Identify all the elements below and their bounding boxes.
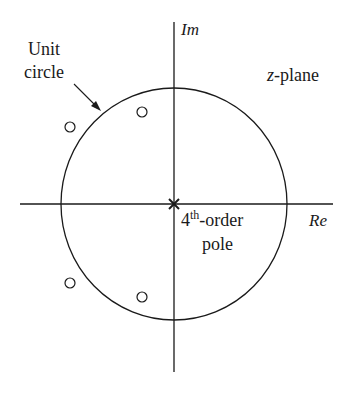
unit-circle-label-line2: circle	[24, 62, 64, 82]
pole-zero-diagram: Unit circle Im z-plane Re 4th-order pole	[0, 0, 357, 394]
z-plane-label: z-plane	[266, 65, 319, 85]
zero-marker-icon	[137, 107, 147, 117]
zero-marker-icon	[65, 278, 75, 288]
zero-marker-icon	[65, 122, 75, 132]
zero-marker-icon	[137, 292, 147, 302]
pole-label-line1: 4th-order	[181, 208, 243, 230]
unit-circle-label-line1: Unit	[28, 39, 60, 59]
pole-label-line2: pole	[202, 234, 233, 254]
real-axis-label: Re	[308, 211, 327, 230]
imaginary-axis-label: Im	[180, 20, 199, 39]
